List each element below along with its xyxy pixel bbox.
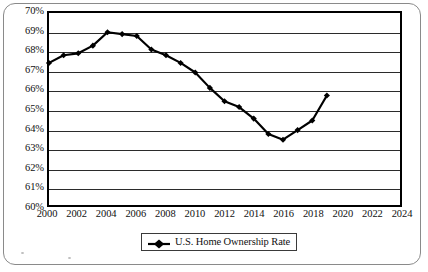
x-axis-tick-label: 2024 xyxy=(392,208,413,220)
y-axis-tick-label: 69% xyxy=(25,25,44,36)
chart-screenshot: 70%69%68%67%66%65%64%63%62%61%60% 200020… xyxy=(0,0,428,272)
series-line xyxy=(49,32,327,140)
plot-area xyxy=(47,11,402,207)
y-axis-tick-label: 64% xyxy=(25,123,44,134)
scan-speck xyxy=(68,257,71,259)
y-axis-tick-label: 65% xyxy=(25,104,44,115)
chart-legend: U.S. Home Ownership Rate xyxy=(141,233,297,251)
y-axis-tick-label: 68% xyxy=(25,45,44,56)
x-axis-tick-label: 2004 xyxy=(96,208,117,220)
series-layer xyxy=(49,13,400,205)
x-axis-tick-label: 2018 xyxy=(303,208,324,220)
x-axis-tick-label: 2000 xyxy=(37,208,58,220)
x-axis-tick-label: 2020 xyxy=(333,208,354,220)
y-axis-tick-label: 62% xyxy=(25,163,44,174)
x-axis-tick-label: 2006 xyxy=(125,208,146,220)
x-axis-tick-label: 2002 xyxy=(66,208,87,220)
y-axis-tick-label: 66% xyxy=(25,84,44,95)
x-axis-tick-label: 2008 xyxy=(155,208,176,220)
x-axis-tick-label: 2016 xyxy=(273,208,294,220)
x-axis-tick-label: 2022 xyxy=(362,208,383,220)
y-axis-tick-label: 70% xyxy=(25,6,44,17)
y-axis-tick-labels: 70%69%68%67%66%65%64%63%62%61%60% xyxy=(0,0,47,218)
data-point-marker xyxy=(119,31,125,37)
y-axis-tick-label: 67% xyxy=(25,65,44,76)
y-axis-tick-label: 63% xyxy=(25,143,44,154)
x-axis-tick-label: 2010 xyxy=(185,208,206,220)
y-axis-tick-label: 61% xyxy=(25,182,44,193)
line-diamond-marker-icon xyxy=(147,236,171,248)
scan-speck xyxy=(21,252,24,254)
x-axis-tick-label: 2012 xyxy=(214,208,235,220)
legend-entry-label: U.S. Home Ownership Rate xyxy=(175,236,290,248)
x-axis-tick-labels: 2000200220042006200820102012201420162018… xyxy=(0,208,428,224)
x-axis-tick-label: 2014 xyxy=(244,208,265,220)
